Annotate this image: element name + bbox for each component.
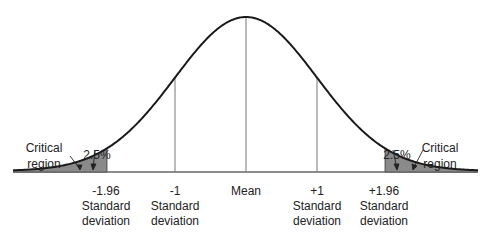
axis-value: -1.96	[66, 184, 146, 199]
right-region-title-line1: Critical	[412, 140, 468, 156]
axis-value: -1	[135, 184, 215, 199]
axis-label-mean: Mean	[206, 184, 286, 199]
axis-unit-line1: Standard	[135, 199, 215, 214]
axis-unit-line1: Standard	[344, 199, 424, 214]
axis-unit-line1: Standard	[66, 199, 146, 214]
axis-value: +1.96	[344, 184, 424, 199]
left-region-title-line2: region	[16, 156, 72, 172]
axis-value: Mean	[206, 184, 286, 199]
axis-label-minus-1-96: -1.96 Standard deviation	[66, 184, 146, 229]
right-region-title-line2: region	[412, 156, 468, 172]
left-percent-label: 2.5%	[79, 148, 115, 163]
axis-label-plus-1-96: +1.96 Standard deviation	[344, 184, 424, 229]
axis-label-minus-1: -1 Standard deviation	[135, 184, 215, 229]
axis-unit-line2: deviation	[344, 214, 424, 229]
axis-unit-line2: deviation	[66, 214, 146, 229]
axis-unit-line2: deviation	[135, 214, 215, 229]
left-critical-region-label: Critical region	[16, 140, 72, 172]
right-percent-label: 2.5%	[379, 148, 415, 163]
left-region-title-line1: Critical	[16, 140, 72, 156]
right-critical-region-label: Critical region	[412, 140, 468, 172]
